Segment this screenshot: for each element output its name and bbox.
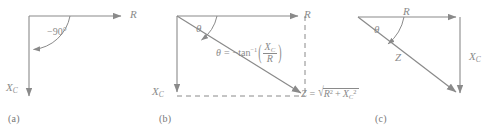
panel-b-caption: (b) — [159, 113, 171, 124]
panel-a-angle-label: −90° — [47, 27, 67, 37]
panel-b-r-label: R — [304, 9, 311, 20]
panel-a-r-label: R — [130, 9, 137, 20]
phasor-diagram-figure: R XC −90° (a) R XC — [0, 0, 494, 136]
panel-c-z-label: Z — [395, 52, 401, 63]
panel-c-theta-label: θ — [374, 24, 379, 35]
panel-a-xc-label: XC — [6, 82, 18, 95]
panel-c-caption: (c) — [375, 113, 387, 124]
panel-a-caption: (a) — [8, 113, 20, 124]
panel-b-xc-label: XC — [152, 86, 164, 99]
panel-b-theta-equation: θ=−tan−1(XCR) — [216, 42, 283, 65]
panel-b-theta-label: θ — [196, 23, 201, 34]
panel-c-xc-label: XC — [469, 51, 481, 64]
panel-c-theta-arc — [388, 17, 404, 44]
panel-c-r-label: R — [403, 6, 410, 17]
panel-c-z-side — [358, 17, 456, 92]
